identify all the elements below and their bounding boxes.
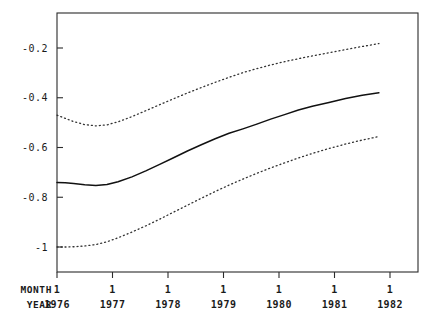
x-tick-label-month: 1 (220, 284, 226, 295)
x-tick-label-year: 1981 (322, 299, 348, 310)
y-tick-label: -0.6 (22, 142, 48, 153)
x-tick-label-year: 1979 (211, 299, 237, 310)
y-tick-label: -0.2 (22, 43, 48, 54)
x-tick-label-year: 1976 (44, 299, 70, 310)
series-upper-confidence-band (57, 44, 379, 126)
y-tick-label: -0.4 (22, 92, 48, 103)
x-tick-label-month: 1 (109, 284, 115, 295)
series-estimate (57, 93, 379, 186)
x-tick-label-month: 1 (331, 284, 337, 295)
x-tick-label-month: 1 (165, 284, 171, 295)
line-chart: -0.2-0.4-0.6-0.8-1 MONTH1111111YEAR19761… (0, 0, 430, 330)
y-axis-tick-labels: -0.2-0.4-0.6-0.8-1 (22, 43, 48, 253)
x-axis-ticks (57, 272, 390, 278)
x-tick-label-month: 1 (276, 284, 282, 295)
plot-frame (57, 13, 418, 272)
series-lower-confidence-band (57, 137, 379, 247)
x-axis-labels: MONTH1111111YEAR197619771978197919801981… (20, 284, 402, 310)
y-axis-ticks (57, 48, 63, 247)
x-axis-row-label-month: MONTH (20, 284, 52, 295)
chart-container: -0.2-0.4-0.6-0.8-1 MONTH1111111YEAR19761… (0, 0, 430, 330)
x-tick-label-year: 1978 (155, 299, 181, 310)
x-tick-label-year: 1980 (266, 299, 292, 310)
y-tick-label: -0.8 (22, 192, 48, 203)
y-tick-label: -1 (35, 242, 48, 253)
x-tick-label-month: 1 (387, 284, 393, 295)
x-tick-label-year: 1982 (377, 299, 403, 310)
data-series-layer (57, 44, 379, 247)
x-tick-label-month: 1 (54, 284, 60, 295)
x-tick-label-year: 1977 (100, 299, 126, 310)
